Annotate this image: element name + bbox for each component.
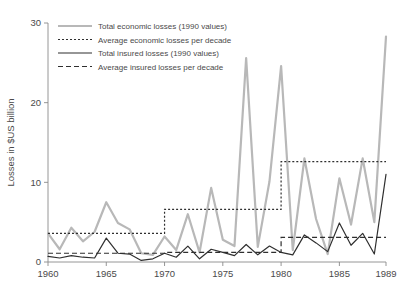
y-tick-label: 30 (30, 17, 41, 28)
x-tick-label: 1970 (154, 268, 175, 279)
legend-label-0: Total economic losses (1990 values) (98, 22, 227, 31)
chart-container: 01020301960196519701975198019851989Losse… (0, 0, 399, 298)
y-tick-label: 0 (36, 256, 41, 267)
y-tick-label: 10 (30, 177, 41, 188)
legend-label-3: Average insured losses per decade (98, 63, 224, 72)
x-tick-label: 1960 (37, 268, 58, 279)
legend-label-2: Total insured losses (1990 values) (98, 49, 219, 58)
y-axis-title: Losses in $US billion (5, 98, 16, 186)
x-tick-label: 1965 (96, 268, 117, 279)
x-tick-label: 1980 (271, 268, 292, 279)
y-tick-label: 20 (30, 97, 41, 108)
chart-legend: Total economic losses (1990 values)Avera… (58, 22, 232, 72)
line-chart: 01020301960196519701975198019851989Losse… (0, 0, 399, 298)
x-tick-label: 1989 (375, 268, 396, 279)
x-tick-label: 1975 (212, 268, 233, 279)
x-tick-label: 1985 (329, 268, 350, 279)
legend-label-1: Average economic losses per decade (98, 36, 232, 45)
